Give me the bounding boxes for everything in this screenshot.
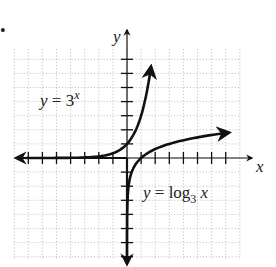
log-exp-graph: y x y = 3x y = log3 x <box>0 0 276 267</box>
x-axis-label: x <box>255 157 264 176</box>
exp-label: y = 3x <box>38 88 80 110</box>
log-label: y = log3 x <box>141 183 209 206</box>
y-axis-label: y <box>111 27 121 46</box>
